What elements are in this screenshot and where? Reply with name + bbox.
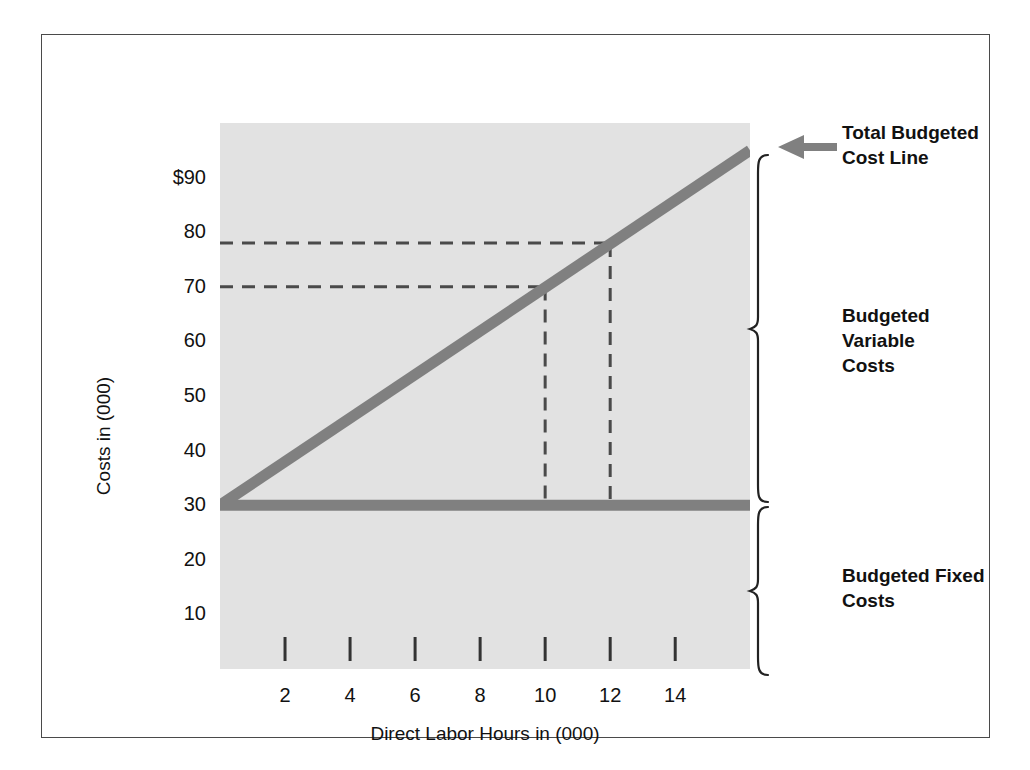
y-tick-label: 10 xyxy=(136,603,206,623)
y-tick-label: 70 xyxy=(136,276,206,296)
y-axis-title: Costs in (000) xyxy=(93,336,115,536)
y-tick-label: 60 xyxy=(136,330,206,350)
total-budgeted-cost-line xyxy=(220,150,750,505)
y-tick-label: 30 xyxy=(136,494,206,514)
x-axis-tick-marks xyxy=(285,637,675,661)
annotation-budgeted-fixed-costs: Budgeted Fixed Costs xyxy=(842,563,985,613)
x-tick-label: 4 xyxy=(320,683,380,707)
figure-canvas: Costs in (000) $908070605040302010 24681… xyxy=(0,0,1030,770)
y-tick-label: 50 xyxy=(136,385,206,405)
data-series xyxy=(220,150,750,505)
plot-graphics xyxy=(220,123,750,669)
x-axis-tick-labels: 2468101214 xyxy=(220,683,750,713)
plot-area xyxy=(220,123,750,669)
y-tick-label: 40 xyxy=(136,440,206,460)
brace-variable-costs xyxy=(750,155,768,502)
y-tick-label: $90 xyxy=(136,167,206,187)
annotation-total-budgeted-cost-line: Total Budgeted Cost Line xyxy=(842,120,979,170)
y-tick-label: 80 xyxy=(136,221,206,241)
arrow-icon xyxy=(778,135,837,159)
figure-frame: Costs in (000) $908070605040302010 24681… xyxy=(41,34,990,738)
brace-fixed-costs xyxy=(750,507,768,675)
x-tick-label: 6 xyxy=(385,683,445,707)
x-tick-label: 2 xyxy=(255,683,315,707)
x-tick-label: 14 xyxy=(645,683,705,707)
annotation-budgeted-variable-costs: Budgeted Variable Costs xyxy=(842,303,989,378)
x-axis-title: Direct Labor Hours in (000) xyxy=(220,723,750,745)
x-tick-label: 12 xyxy=(580,683,640,707)
x-tick-label: 8 xyxy=(450,683,510,707)
y-tick-label: 20 xyxy=(136,549,206,569)
y-axis-tick-labels: $908070605040302010 xyxy=(134,123,206,669)
x-tick-label: 10 xyxy=(515,683,575,707)
